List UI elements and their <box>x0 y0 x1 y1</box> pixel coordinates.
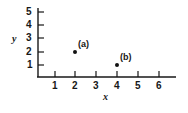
x-tick-label-6: 6 <box>156 81 162 91</box>
data-point-a-label: (a) <box>78 40 89 49</box>
y-tick-label-4: 4 <box>26 20 32 30</box>
y-tick-label-3: 3 <box>26 33 32 43</box>
y-tick-label-5: 5 <box>26 7 32 17</box>
y-tick-label-1: 1 <box>27 60 33 70</box>
x-tick-label-4: 4 <box>114 81 120 91</box>
data-point-b-label: (b) <box>120 53 132 62</box>
y-tick-label-2: 2 <box>26 47 32 57</box>
x-axis-label: x <box>103 92 108 102</box>
x-tick-label-2: 2 <box>72 81 78 91</box>
data-point-b-marker[interactable] <box>115 63 119 67</box>
x-tick-label-3: 3 <box>93 81 99 91</box>
data-point-a-marker[interactable] <box>73 50 77 54</box>
x-tick-label-5: 5 <box>135 81 141 91</box>
x-tick-label-1: 1 <box>52 81 58 91</box>
y-axis-label: y <box>12 34 16 44</box>
scatter-plot: 5 4 3 2 1 1 2 3 4 5 6 y x (a) (b) <box>0 0 188 113</box>
